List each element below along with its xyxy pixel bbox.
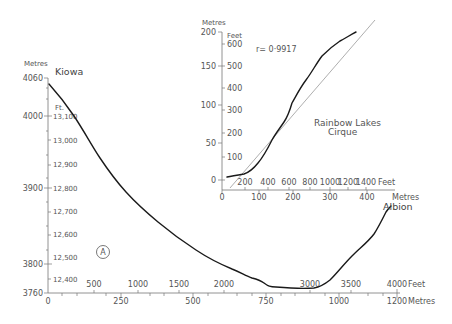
inset-y-feet-label: 400 bbox=[227, 84, 242, 93]
inset-y-tick-label: 200 bbox=[201, 28, 216, 37]
inset-y-unit-feet: Feet bbox=[227, 32, 242, 40]
inset-x-feet-label: 800 bbox=[302, 178, 317, 187]
inset-y-tick-label: 150 bbox=[201, 62, 216, 71]
main-x-metres-label: 1200 bbox=[387, 297, 407, 306]
inset-y-tick-label: 0 bbox=[211, 176, 216, 185]
main-x-feet-label: 3500 bbox=[341, 280, 361, 289]
main-x-metres-label: 0 bbox=[45, 297, 50, 306]
inset-y-feet-label: 300 bbox=[227, 106, 242, 115]
inset-x-unit-feet: Feet bbox=[378, 178, 395, 187]
main-x-unit-feet: Feet bbox=[408, 280, 425, 289]
inset-x-feet-label: 600 bbox=[281, 178, 296, 187]
main-y-tick-label: 3900 bbox=[23, 184, 43, 193]
inset-x-feet-label: 400 bbox=[260, 178, 275, 187]
inset-x-metres-label: 0 bbox=[219, 193, 224, 202]
inset-x-feet-label: 200 bbox=[237, 178, 252, 187]
inset-x-metres-label: 300 bbox=[322, 193, 337, 202]
main-y-unit-metres: Metres bbox=[24, 60, 48, 68]
figure: Metres 4060 4000 3900 3800 3760 Ft. 13,1… bbox=[0, 0, 452, 324]
inset-x-metres-label: 100 bbox=[251, 193, 266, 202]
main-y-feet-label: 12,600 bbox=[53, 231, 78, 239]
inset-y-feet-label: 600 bbox=[227, 40, 242, 49]
main-y-unit-feet: Ft. bbox=[55, 104, 64, 112]
main-x-feet-label: 1500 bbox=[169, 280, 189, 289]
main-x-unit-metres: Metres bbox=[408, 297, 435, 306]
inset-x-unit-metres: Metres bbox=[392, 193, 419, 202]
inset-y-feet-label: 100 bbox=[227, 153, 242, 162]
inset-title-line2: Cirque bbox=[328, 127, 358, 137]
main-y-feet-label: 12,400 bbox=[53, 276, 78, 284]
main-x-metres-label: 1000 bbox=[329, 297, 349, 306]
main-y-feet-label: 13,000 bbox=[53, 137, 78, 145]
svg-text:A: A bbox=[100, 248, 106, 257]
main-x-feet-label: 500 bbox=[86, 280, 101, 289]
main-y-tick-label: 3760 bbox=[23, 289, 43, 298]
main-x-metres-label: 500 bbox=[185, 297, 200, 306]
main-y-tick-label: 4060 bbox=[23, 74, 43, 83]
inset-x-metres-label: 400 bbox=[359, 193, 374, 202]
inset-fit-line bbox=[230, 20, 375, 188]
inset-y-unit-metres: Metres bbox=[202, 19, 226, 27]
main-x-feet-label: 1000 bbox=[128, 280, 148, 289]
end-location-albion: Albion bbox=[383, 201, 413, 212]
inset-y-tick-label: 50 bbox=[206, 139, 216, 148]
inset-y-tick-label: 100 bbox=[201, 101, 216, 110]
inset-y-feet-label: 500 bbox=[227, 62, 242, 71]
start-location-kiowa: Kiowa bbox=[55, 66, 83, 77]
inset-chart: Metres 200 150 100 50 0 Feet 600 500 400… bbox=[201, 19, 419, 202]
main-x-metres-label: 750 bbox=[258, 297, 273, 306]
inset-x-metres-label: 200 bbox=[285, 193, 300, 202]
main-y-feet-label: 12,800 bbox=[53, 185, 78, 193]
main-y-feet-label: 12,700 bbox=[53, 208, 78, 216]
panel-label-a: A bbox=[97, 246, 110, 259]
inset-x-feet-label: 1400 bbox=[356, 178, 376, 187]
main-x-feet-label: 2000 bbox=[214, 280, 234, 289]
main-x-feet-label: 4000 bbox=[387, 280, 407, 289]
main-y-feet-label: 12,900 bbox=[53, 161, 78, 169]
inset-y-feet-label: 200 bbox=[227, 129, 242, 138]
main-x-metres-label: 250 bbox=[113, 297, 128, 306]
main-y-feet-label: 12,500 bbox=[53, 254, 78, 262]
correlation-coefficient: r= 0·9917 bbox=[256, 45, 297, 54]
main-y-tick-label: 4000 bbox=[23, 112, 43, 121]
main-y-tick-label: 3800 bbox=[23, 260, 43, 269]
